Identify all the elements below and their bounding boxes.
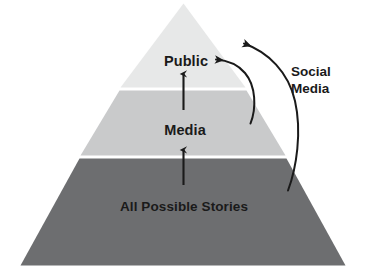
annotation-social-media: Social Media	[291, 63, 365, 98]
annotation-social-media-line1: Social	[291, 63, 365, 80]
tier-label-media: Media	[1, 122, 368, 139]
tier-label-all-possible-stories: All Possible Stories	[0, 199, 368, 215]
pyramid-graphic	[0, 0, 368, 280]
pyramid-diagram: Public Media All Possible Stories Social…	[0, 0, 368, 280]
annotation-social-media-line2: Media	[291, 80, 365, 97]
